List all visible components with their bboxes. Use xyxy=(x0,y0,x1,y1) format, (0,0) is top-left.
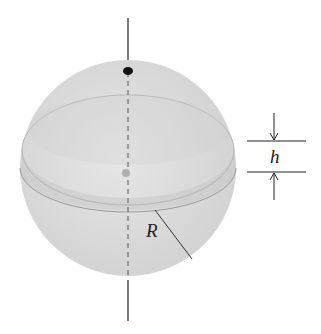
pole-dot xyxy=(123,67,133,75)
center-dot xyxy=(122,169,130,177)
height-label: h xyxy=(270,146,280,167)
sphere-figure: R h xyxy=(0,0,321,334)
sphere-diagram: R h xyxy=(0,0,321,334)
radius-label: R xyxy=(145,220,158,241)
